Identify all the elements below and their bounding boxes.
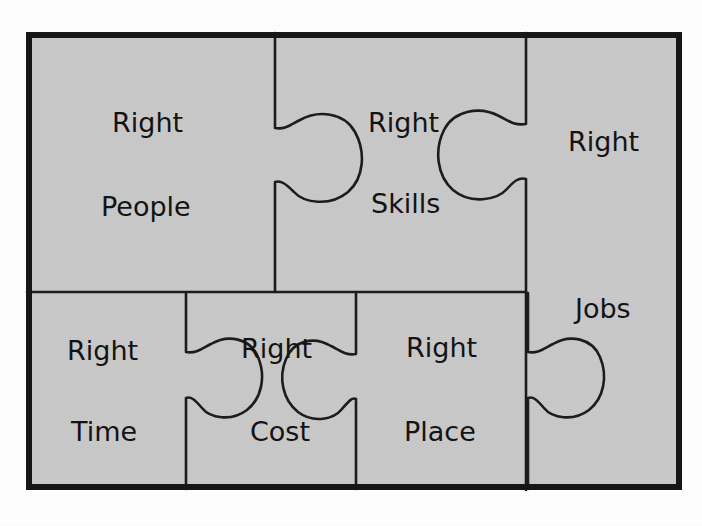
label-right-place-line2: Place xyxy=(404,416,476,447)
label-right-place-line1: Right xyxy=(406,332,477,363)
label-right-time-line1: Right xyxy=(67,335,138,366)
label-right-jobs-line1: Right xyxy=(568,126,639,157)
jigsaw-puzzle-diagram: Right People Right Skills Right Jobs Rig… xyxy=(0,0,702,526)
label-right-skills-line1: Right xyxy=(368,107,439,138)
puzzle-canvas: Right People Right Skills Right Jobs Rig… xyxy=(0,0,702,526)
label-right-people-line2: People xyxy=(101,191,191,222)
label-right-cost-line1: Right xyxy=(241,333,312,364)
label-right-skills-line2: Skills xyxy=(371,188,440,219)
label-right-cost-line2: Cost xyxy=(250,416,310,447)
label-right-jobs-line2: Jobs xyxy=(573,293,631,324)
label-right-time-line2: Time xyxy=(70,416,137,447)
label-right-people-line1: Right xyxy=(112,107,183,138)
